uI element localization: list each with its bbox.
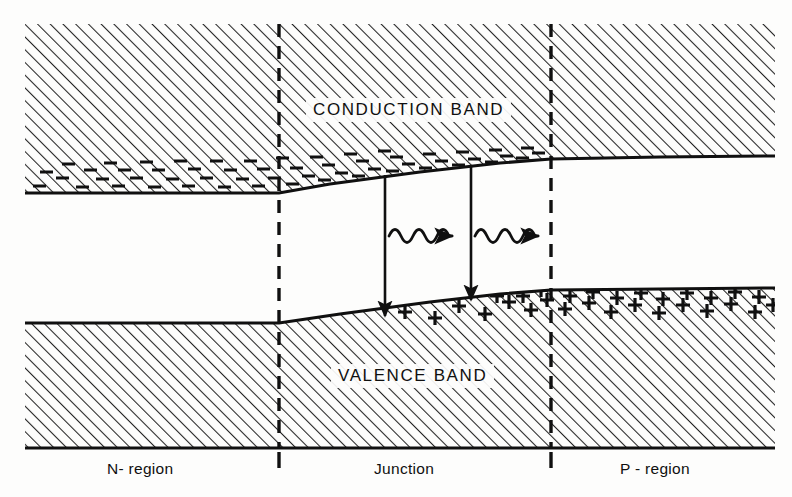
valence-band-label: VALENCE BAND <box>331 364 494 388</box>
conduction-band-label: CONDUCTION BAND <box>306 98 511 122</box>
band-diagram-figure <box>0 0 792 497</box>
p-region-label: P - region <box>620 460 690 478</box>
n-region-label: N- region <box>107 460 173 478</box>
junction-label: Junction <box>374 460 434 478</box>
